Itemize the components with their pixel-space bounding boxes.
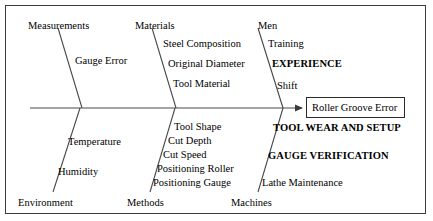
cause-label: Lathe Maintenance (262, 177, 343, 189)
cause-label: Shift (277, 80, 297, 92)
cause-label: GAUGE VERIFICATION (268, 150, 389, 162)
cause-label: Positioning Gauge (153, 177, 231, 189)
cause-label: TOOL WEAR AND SETUP (273, 122, 401, 134)
cause-label: EXPERIENCE (272, 58, 342, 70)
category-label-men: Men (258, 20, 277, 32)
category-label-environment: Environment (18, 197, 73, 209)
cause-label: Training (268, 38, 304, 50)
cause-label: Gauge Error (75, 55, 127, 67)
category-label-measurements: Measurements (28, 20, 89, 32)
category-label-machines: Machines (231, 197, 272, 209)
cause-label: Cut Depth (168, 135, 211, 147)
cause-label: Cut Speed (163, 149, 206, 161)
fishbone-diagram-canvas: MeasurementsGauge ErrorMaterialsSteel Co… (0, 0, 433, 221)
effect-box: Roller Groove Error (306, 97, 405, 118)
cause-label: Original Diameter (168, 58, 245, 70)
category-label-methods: Methods (127, 197, 164, 209)
bone-line-environment (53, 108, 80, 192)
cause-label: Steel Composition (163, 38, 241, 50)
cause-label: Tool Material (173, 78, 230, 90)
cause-label: Humidity (58, 166, 98, 178)
bone-line-measurements (58, 28, 82, 108)
effect-label: Roller Groove Error (312, 102, 397, 113)
cause-label: Temperature (68, 136, 121, 148)
category-label-materials: Materials (135, 20, 175, 32)
cause-label: Positioning Roller (157, 163, 234, 175)
cause-label: Tool Shape (174, 121, 221, 133)
